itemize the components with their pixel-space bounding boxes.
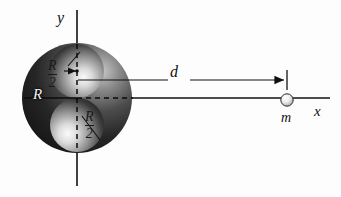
x-axis-label: x [314, 104, 321, 119]
point-mass-sphere [281, 94, 293, 106]
point-mass-label: m [281, 111, 291, 125]
upper-cavity-center-dot [75, 69, 79, 73]
lower-cavity-radius-label: R 2 [85, 110, 94, 142]
upper-cavity-radius-label: R 2 [48, 59, 57, 91]
upper-cavity-radius-numerator: R [48, 59, 57, 73]
physics-diagram-sphere-with-cavities: y x d m R R 2 R 2 [0, 0, 341, 197]
diagram-canvas [0, 0, 341, 197]
sphere-radius-label: R [33, 87, 42, 102]
distance-label: d [170, 64, 178, 80]
upper-cavity-radius-denominator: 2 [48, 76, 57, 90]
lower-cavity-radius-denominator: 2 [85, 127, 94, 141]
lower-cavity-radius-numerator: R [85, 110, 94, 124]
y-axis-label: y [57, 10, 64, 26]
